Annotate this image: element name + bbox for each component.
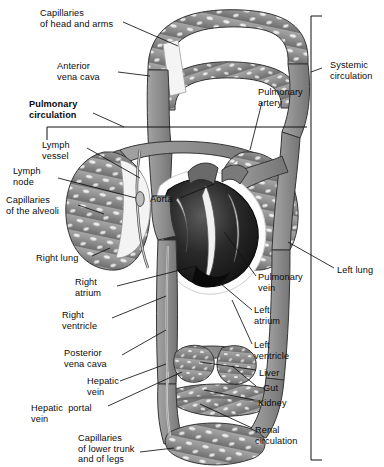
label-left-ventricle: Left ventricle xyxy=(254,340,289,361)
label-renal-circulation: Renal circulation xyxy=(255,425,297,446)
label-right-lung: Right lung xyxy=(36,253,78,264)
label-left-lung: Left lung xyxy=(337,265,373,276)
label-aorta: Aorta xyxy=(150,194,172,205)
label-anterior-vena-cava: Anterior vena cava xyxy=(57,61,100,82)
label-hepatic-vein: Hepatic vein xyxy=(87,376,119,397)
label-capillaries-of-the-alveoli: Capillaries of the alveoli xyxy=(6,195,59,216)
label-liver: Liver xyxy=(259,368,279,379)
label-left-atrium: Left atrium xyxy=(254,305,280,326)
label-right-atrium: Right atrium xyxy=(75,277,101,298)
label-lymph-vessel: Lymph vessel xyxy=(42,140,70,161)
label-capillaries-lower-trunk: Capillaries of lower trunk and of legs xyxy=(78,433,135,465)
label-lymph-node: Lymph node xyxy=(13,166,41,187)
systemic-circulation-bracket xyxy=(311,16,322,460)
label-pulmonary-artery: Pulmonary artery xyxy=(258,87,303,108)
label-posterior-vena-cava: Posterior vena cava xyxy=(64,348,107,369)
label-pulmonary-vein: Pulmonary vein xyxy=(258,272,303,293)
label-capillaries-head-and-arms: Capillaries of head and arms xyxy=(40,8,113,29)
pulmonary-circulation-bracket xyxy=(47,127,307,140)
label-kidney: Kidney xyxy=(258,398,287,409)
label-systemic-circulation: Systemic circulation xyxy=(330,60,372,81)
label-hepatic-portal-vein: Hepatic portal vein xyxy=(31,403,92,424)
label-right-ventricle: Right ventricle xyxy=(62,310,97,331)
label-pulmonary-circulation: Pulmonary circulation xyxy=(29,99,77,120)
figure-canvas: Capillaries of head and arms Anterior ve… xyxy=(0,0,384,467)
label-gut: Gut xyxy=(263,383,278,394)
